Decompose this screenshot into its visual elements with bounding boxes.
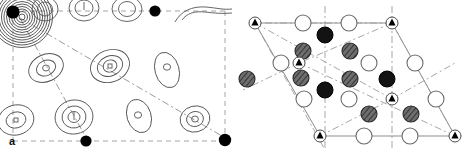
contour-bottom-row <box>0 96 213 139</box>
atom-open <box>407 55 423 71</box>
atom-open <box>273 55 289 71</box>
atom-hatched <box>361 106 377 122</box>
atom-hatched <box>239 71 255 87</box>
atom-dot <box>149 5 160 16</box>
panel-b-symmetry-diagram: b <box>229 0 469 155</box>
triad-symbol <box>293 57 305 69</box>
triad-symbol <box>386 17 398 29</box>
atom-filled <box>317 82 333 98</box>
atom-hatched <box>342 71 358 87</box>
contour-middle-row <box>24 44 184 91</box>
panel-a-svg <box>0 0 240 155</box>
triad-symbol <box>249 17 261 29</box>
atom-open <box>402 128 418 144</box>
atom-open <box>361 55 377 71</box>
atom-open <box>296 91 312 107</box>
triad-symbol <box>386 93 398 105</box>
density-peak-cluster <box>0 0 53 48</box>
atom-open <box>295 15 311 31</box>
atoms-filled <box>317 27 395 98</box>
atom-hatched <box>342 43 358 59</box>
atom-filled <box>379 71 395 87</box>
panel-b-svg <box>229 0 469 155</box>
atom-dot <box>80 135 91 146</box>
atom-hatched <box>403 106 419 122</box>
atom-dot <box>6 5 19 18</box>
triad-symbol <box>449 130 461 142</box>
atom-open <box>341 15 357 31</box>
figure-container: a <box>0 0 469 155</box>
panel-a-contour-map: a <box>0 0 240 155</box>
atom-open <box>356 128 372 144</box>
triad-symbol <box>314 130 326 142</box>
atom-filled <box>317 27 333 43</box>
atom-hatched <box>293 70 309 86</box>
atom-hatched <box>295 43 311 59</box>
panel-a-label: a <box>9 136 15 147</box>
atom-open <box>428 91 444 107</box>
atom-open <box>341 91 357 107</box>
